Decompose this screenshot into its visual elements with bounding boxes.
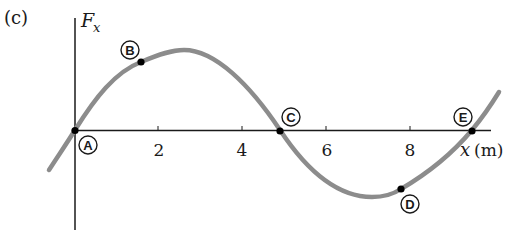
point-b-label: B xyxy=(121,41,139,59)
tick-label-4: 4 xyxy=(237,140,248,160)
point-e-label: E xyxy=(454,108,472,126)
svg-text:D: D xyxy=(405,197,414,212)
svg-text:C: C xyxy=(286,110,296,125)
force-curve xyxy=(49,50,499,197)
point-d-dot xyxy=(397,185,404,192)
point-e-dot xyxy=(468,127,475,134)
svg-text:B: B xyxy=(125,43,134,58)
point-c-dot xyxy=(276,127,283,134)
svg-text:E: E xyxy=(459,110,468,125)
point-c-label: C xyxy=(282,108,300,126)
point-a-label: A xyxy=(79,136,97,154)
x-axis-unit: (m) xyxy=(474,140,503,160)
tick-label-6: 6 xyxy=(322,140,333,160)
panel-label: (c) xyxy=(4,7,28,28)
svg-text:A: A xyxy=(83,138,93,153)
point-b-dot xyxy=(137,58,144,65)
force-position-diagram: (c) F x 2 4 6 8 x (m) A B xyxy=(0,0,519,235)
point-a-dot xyxy=(71,127,78,134)
y-axis-label-subscript: x xyxy=(93,20,101,35)
tick-label-8: 8 xyxy=(405,140,416,160)
tick-label-2: 2 xyxy=(154,140,165,160)
point-d-label: D xyxy=(401,195,419,213)
